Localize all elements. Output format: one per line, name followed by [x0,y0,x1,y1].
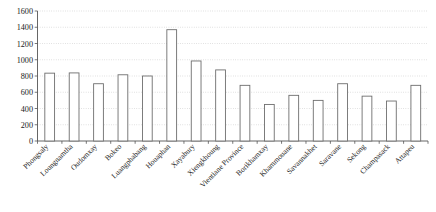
y-tick-label: 800 [21,72,33,81]
bar-series [45,30,421,141]
bar-sekong [362,96,372,141]
bar-champasack [387,101,397,141]
x-tick-labels: PhongsalyLoungnamthaOudomxayBokeoLuangph… [21,141,416,189]
bar-khammouane [289,95,299,141]
y-tick-label: 600 [21,88,33,97]
bar-loungnamtha [69,73,79,141]
y-axis: 02004006008001000120014001600 [17,7,38,146]
bar-luangphabang [142,76,152,141]
y-tick-label: 1600 [17,7,33,16]
y-tick-label: 1000 [17,56,33,65]
bar-chart: 02004006008001000120014001600 PhongsalyL… [0,0,436,212]
x-tick-label-sekong: Sekong [345,142,368,165]
bar-oudomxay [94,84,104,141]
bar-borikhamxay [264,104,274,141]
bar-saravane [338,84,348,141]
bar-bokeo [118,75,128,141]
bar-vientiane-province [240,85,250,141]
x-tick-label-houaphan: Houaphan [144,142,173,171]
bar-savannakhet [313,100,323,141]
y-tick-label: 200 [21,121,33,130]
bar-attapeu [411,85,421,141]
bar-xiengkhoung [216,70,226,141]
y-tick-label: 1400 [17,23,33,32]
chart-canvas: 02004006008001000120014001600 PhongsalyL… [0,0,436,212]
bar-houaphan [167,30,177,141]
x-tick-label-oudomxay: Oudomxay [69,142,99,172]
x-tick-label-saravane: Saravane [317,142,343,168]
x-tick-label-bokeo: Bokeo [103,142,124,163]
y-tick-label: 1200 [17,40,33,49]
x-tick-label-attapeu: Attapeu [393,142,417,166]
bar-phongsaly [45,73,55,141]
y-tick-label: 400 [21,105,33,114]
y-tick-label: 0 [29,137,33,146]
bar-xayabury [191,61,201,141]
